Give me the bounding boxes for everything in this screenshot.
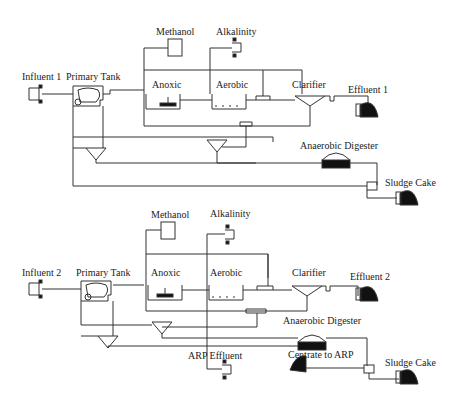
anaerobic-digester-1 bbox=[322, 153, 350, 160]
clarifier-2 bbox=[292, 286, 322, 296]
primary-tank-2-icon bbox=[81, 281, 111, 301]
thickener-1 bbox=[207, 140, 227, 152]
label-primary-tank-1: Primary Tank bbox=[66, 72, 120, 82]
label-influent-1: Influent 1 bbox=[22, 72, 61, 82]
methanol-tank-1 bbox=[168, 39, 182, 56]
label-effluent-2: Effluent 2 bbox=[350, 272, 390, 282]
aerobic-tank-1 bbox=[212, 94, 246, 109]
label-aerobic-1: Aerobic bbox=[216, 80, 248, 90]
influent-1-icon bbox=[29, 85, 42, 103]
influent-2-icon bbox=[29, 280, 42, 298]
label-anoxic-2: Anoxic bbox=[151, 268, 180, 278]
dewatering-1 bbox=[367, 182, 377, 190]
alkalinity-2-icon bbox=[225, 225, 234, 244]
label-digester-1: Anaerobic Digester bbox=[300, 141, 378, 151]
label-alkalinity-2: Alkalinity bbox=[210, 209, 251, 219]
label-alkalinity-1: Alkalinity bbox=[216, 27, 257, 37]
label-aerobic-2: Aerobic bbox=[210, 268, 242, 278]
aerobic-tank-2 bbox=[209, 285, 243, 300]
label-influent-2: Influent 2 bbox=[22, 268, 61, 278]
clarifier-1 bbox=[295, 96, 325, 106]
anaerobic-digester-2 bbox=[298, 335, 326, 342]
label-methanol-2: Methanol bbox=[151, 210, 189, 220]
dewatering-2 bbox=[364, 365, 374, 373]
arp-effluent-icon bbox=[222, 360, 231, 379]
label-anoxic-1: Anoxic bbox=[152, 80, 181, 90]
label-sludge-cake-2: Sludge Cake bbox=[385, 358, 436, 368]
thickener-2 bbox=[152, 322, 172, 334]
label-effluent-1: Effluent 1 bbox=[348, 85, 388, 95]
label-arp-effluent: ARP Effluent bbox=[188, 351, 242, 361]
process-flow-diagram bbox=[0, 0, 455, 401]
label-methanol-1: Methanol bbox=[156, 27, 194, 37]
label-primary-tank-2: Primary Tank bbox=[76, 268, 130, 278]
alkalinity-1-icon bbox=[232, 38, 241, 57]
label-clarifier-1: Clarifier bbox=[292, 80, 326, 90]
primary-tank-1-icon bbox=[73, 86, 103, 106]
methanol-tank-2 bbox=[161, 222, 175, 239]
label-centrate-to-arp: Centrate to ARP bbox=[288, 350, 354, 360]
anoxic-tank-1 bbox=[146, 94, 180, 109]
gravity-thickener-1 bbox=[86, 148, 106, 160]
label-digester-2: Anaerobic Digester bbox=[283, 316, 361, 326]
label-sludge-cake-1: Sludge Cake bbox=[385, 178, 436, 188]
label-clarifier-2: Clarifier bbox=[292, 268, 326, 278]
